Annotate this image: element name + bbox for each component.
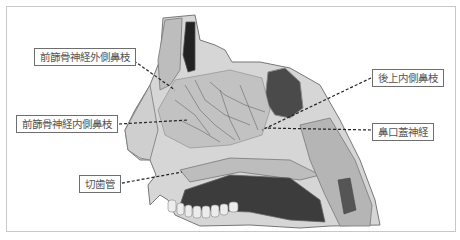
label-posterior-superior-medial: 後上内側鼻枝 [372, 69, 444, 87]
label-anterior-ethmoidal-medial: 前篩骨神経内側鼻枝 [16, 115, 118, 133]
label-incisive-canal: 切歯管 [79, 175, 121, 193]
label-nasopalatine-nerve: 鼻口蓋神経 [372, 123, 434, 141]
label-anterior-ethmoidal-lateral: 前篩骨神経外側鼻枝 [34, 48, 136, 66]
nasal-nerve-network [158, 70, 270, 148]
